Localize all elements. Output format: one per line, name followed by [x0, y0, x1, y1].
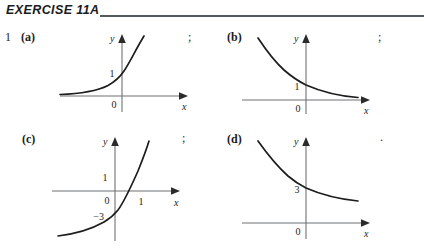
part-d-punctuation: . [380, 130, 383, 145]
graph-d-x-axis-arrow [361, 219, 370, 227]
graph-c-y-axis-arrow [111, 137, 119, 146]
graph-d-y-axis-arrow [302, 137, 310, 146]
graph-b-x-label: x [363, 105, 369, 116]
graph-c-origin-label: 0 [105, 195, 110, 206]
graph-c-y-label: y [102, 136, 108, 147]
graph-c: y x 1 0 −3 1 [50, 133, 200, 248]
graph-d-y-intercept-label: 3 [295, 184, 300, 195]
header-divider [100, 15, 424, 17]
graph-a-y-label: y [109, 33, 115, 44]
part-label-c: (c) [22, 132, 35, 147]
graph-c-y-tick-1: 1 [103, 172, 108, 183]
graph-b: y x 1 0 [240, 30, 385, 120]
graph-a-origin-label: 0 [112, 99, 117, 110]
graph-b-origin-label: 0 [296, 103, 301, 114]
graph-c-x-intercept-label: 1 [139, 196, 144, 207]
graph-a-y-axis-arrow [118, 34, 126, 43]
graph-d-y-label: y [293, 136, 299, 147]
part-a-punctuation: ; [188, 30, 191, 45]
graph-b-curve [258, 38, 358, 98]
graph-a-x-axis-arrow [179, 92, 188, 100]
part-b-punctuation: ; [378, 30, 381, 45]
graph-d-curve [258, 141, 358, 201]
graph-a: y x 1 0 [58, 30, 198, 120]
graph-a-curve [60, 36, 144, 95]
part-c-punctuation: ; [182, 131, 185, 146]
graph-c-x-label: x [173, 197, 179, 208]
graph-c-x-axis-arrow [171, 187, 180, 195]
graph-b-y-label: y [293, 33, 299, 44]
graph-a-tick-1: 1 [110, 68, 115, 79]
graph-b-x-axis-arrow [361, 96, 370, 104]
exercise-title: EXERCISE 11A [6, 3, 100, 17]
graph-a-x-label: x [181, 101, 187, 112]
graph-d-origin-label: 0 [296, 226, 301, 237]
graph-c-y-intercept-label: −3 [93, 211, 104, 222]
graph-b-y-axis-arrow [302, 34, 310, 43]
graph-d: y x 3 0 [240, 133, 390, 248]
part-label-a: (a) [21, 30, 35, 45]
graph-d-x-label: x [363, 228, 369, 239]
exercise-page: EXERCISE 11A 1 (a) y x 1 0 ; (b) [0, 0, 424, 252]
graph-b-tick-1: 1 [295, 81, 300, 92]
question-number: 1 [5, 30, 11, 45]
